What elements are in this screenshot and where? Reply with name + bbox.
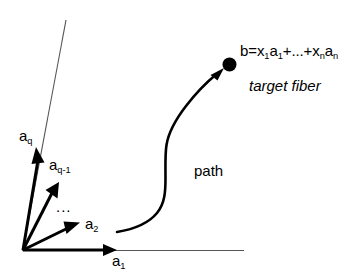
path-label: path <box>194 163 223 178</box>
diagram-canvas: aq aq-1 ... a2 a1 path b=x1a1+...+xnan t… <box>0 0 355 280</box>
formula-mid-3: a <box>325 42 333 59</box>
formula-sub-3: n <box>320 51 325 61</box>
vector-label-aq-sub: q <box>27 136 32 146</box>
formula-mid-2: +...+x <box>283 42 320 59</box>
vector-label-a1: a1 <box>112 253 126 268</box>
vector-label-aq-minus-1-sub: q-1 <box>57 165 70 175</box>
target-fiber-label: target fiber <box>249 78 321 93</box>
vector-label-a2-sub: 2 <box>93 224 98 234</box>
vector-aq1-arrowhead <box>46 182 60 199</box>
vector-label-aq-minus-1: aq-1 <box>49 157 71 172</box>
vector-label-a1-sub: 1 <box>120 261 125 271</box>
vector-label-a2: a2 <box>85 216 99 231</box>
formula-sub-1: 1 <box>264 51 269 61</box>
formula-lhs: b=x <box>240 42 264 59</box>
target-point-dot <box>223 58 237 72</box>
vector-label-aq: aq <box>19 128 33 143</box>
vector-a2-arrowhead <box>64 222 81 235</box>
vectors-ellipsis: ... <box>56 199 72 214</box>
formula-sub-4: n <box>333 51 338 61</box>
formula-mid-1: a <box>269 42 277 59</box>
target-formula: b=x1a1+...+xnan <box>240 43 338 58</box>
vector-aq-arrowhead <box>32 147 45 164</box>
formula-sub-2: 1 <box>278 51 283 61</box>
path-curve <box>117 75 216 233</box>
